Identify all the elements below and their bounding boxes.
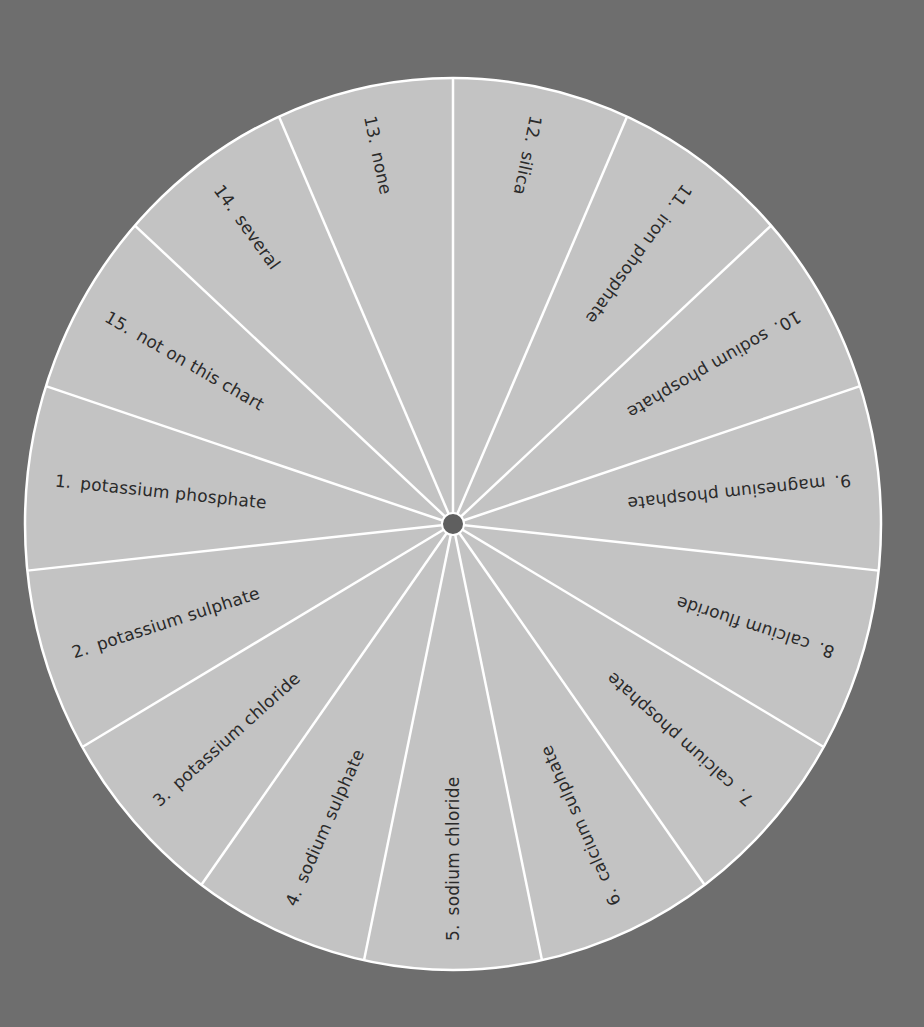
slice-number: 9. xyxy=(833,470,852,492)
slice-text: sodium chloride xyxy=(443,777,463,916)
slice-number: 1. xyxy=(54,470,73,492)
slice-label-5: 5.sodium chloride xyxy=(443,777,463,941)
slice-number: 5. xyxy=(443,924,463,941)
center-hub-dot xyxy=(442,513,464,535)
